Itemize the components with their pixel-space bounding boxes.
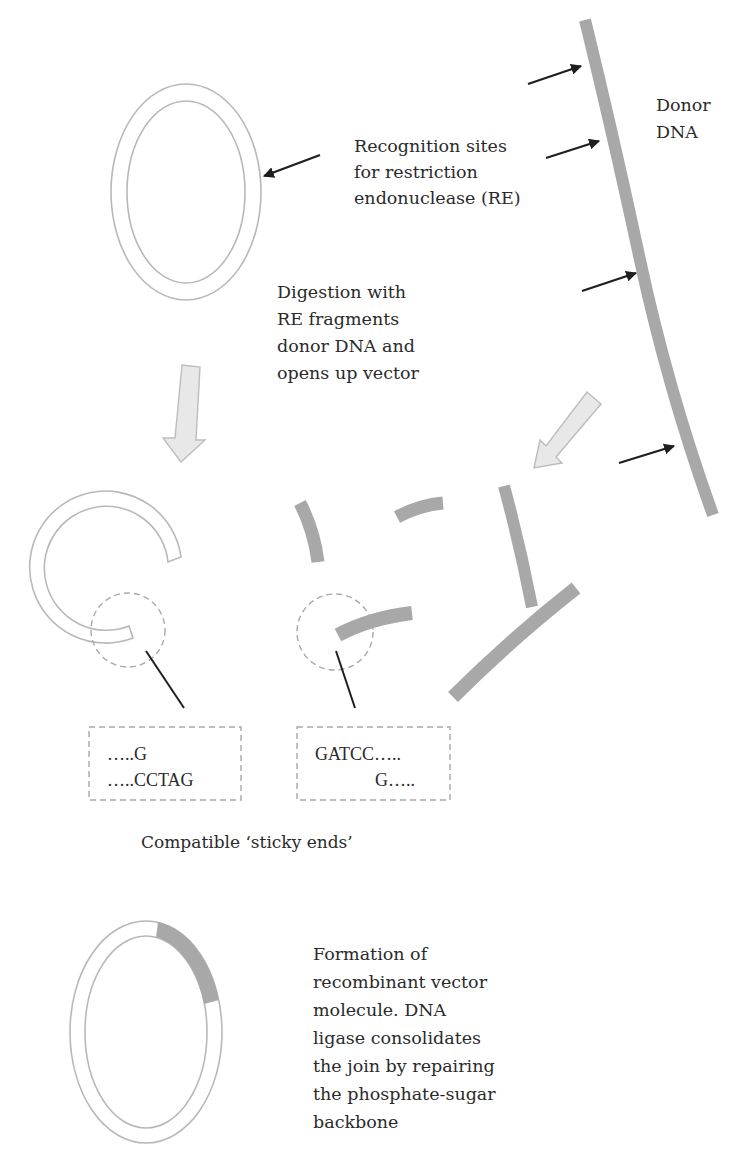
insert-end-leader-line: [336, 651, 355, 708]
formation-label: Formation of recombinant vector molecule…: [313, 944, 501, 1132]
sticky-ends-caption: Compatible ‘sticky ends’: [141, 832, 353, 852]
vector-digestion-flow-arrow-icon: [163, 365, 205, 462]
donor-dna-label: Donor DNA: [656, 95, 716, 142]
cloning-diagram: Recognition sites for restriction endonu…: [0, 0, 751, 1162]
insert-sticky-end-sequence: GATCC….. G…..: [315, 744, 415, 790]
opened-vector: [30, 491, 181, 643]
fragment-5: [453, 588, 576, 697]
vector-plasmid: [111, 84, 261, 300]
digestion-label: Digestion with RE fragments donor DNA an…: [277, 282, 421, 383]
plasmid-inner-ring: [127, 101, 245, 283]
site-arrow-2-icon: [546, 141, 599, 158]
fragment-1: [300, 503, 318, 562]
plasmid-outer-ring: [111, 84, 261, 300]
donor-digestion-flow-arrow-icon: [534, 392, 601, 468]
site-arrow-4-icon: [619, 446, 674, 463]
fragment-4-sticky-end: [338, 613, 412, 635]
fragment-3: [504, 486, 532, 607]
fragment-2: [397, 503, 443, 517]
site-arrow-3-icon: [582, 273, 636, 291]
site-arrow-1-icon: [528, 66, 581, 84]
recognition-sites-label: Recognition sites for restriction endonu…: [354, 136, 521, 208]
vector-end-leader-line: [146, 651, 184, 708]
recombinant-inner-ring: [85, 936, 207, 1128]
recombinant-plasmid: [70, 921, 222, 1143]
recognition-site-pointer-arrow-icon: [264, 155, 320, 176]
vector-sticky-end-sequence: …..G …..CCTAG: [107, 744, 194, 790]
